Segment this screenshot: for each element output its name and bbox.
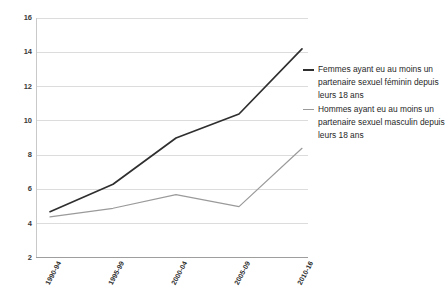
y-tick-label: 2 <box>6 254 32 262</box>
chart-legend: Femmes ayant eu au moins un partenaire s… <box>303 63 446 142</box>
x-tick-label: 2010-16 <box>296 260 314 286</box>
legend-entry[interactable]: Femmes ayant eu au moins un partenaire s… <box>303 63 446 103</box>
legend-entry[interactable]: Hommes ayant eu au moins un partenaire s… <box>303 103 446 143</box>
legend-label: Femmes ayant eu au moins un partenaire s… <box>318 63 446 103</box>
x-tick-label: 2005-09 <box>233 260 251 286</box>
x-tick-label: 1990-94 <box>44 260 62 286</box>
x-tick-label: 1995-99 <box>107 260 125 286</box>
series-line-1 <box>50 148 302 217</box>
y-tick-label: 6 <box>6 186 32 194</box>
y-tick-label: 4 <box>6 220 32 228</box>
y-tick-label: 14 <box>6 49 32 57</box>
plot-area <box>36 18 308 258</box>
line-chart: 161412108642 1990-941995-992000-042005-0… <box>0 0 446 301</box>
legend-line-swatch-icon <box>303 109 314 111</box>
y-tick-label: 16 <box>6 14 32 22</box>
legend-label: Hommes ayant eu au moins un partenaire s… <box>318 103 446 143</box>
series-line-0 <box>50 49 302 212</box>
plot-svg <box>36 18 308 258</box>
y-axis: 161412108642 <box>0 18 32 258</box>
legend-line-swatch-icon <box>303 69 314 71</box>
y-tick-label: 8 <box>6 151 32 159</box>
x-tick-label: 2000-04 <box>170 260 188 286</box>
y-tick-label: 10 <box>6 117 32 125</box>
y-tick-label: 12 <box>6 83 32 91</box>
x-axis: 1990-941995-992000-042005-092010-16 <box>36 258 308 301</box>
